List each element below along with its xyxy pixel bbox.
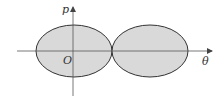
phase-diagram: p O θ <box>0 0 224 102</box>
y-axis-label: p <box>62 4 69 15</box>
x-axis-label: θ <box>202 56 209 67</box>
origin-label: O <box>63 55 72 66</box>
diagram-canvas <box>0 0 224 102</box>
